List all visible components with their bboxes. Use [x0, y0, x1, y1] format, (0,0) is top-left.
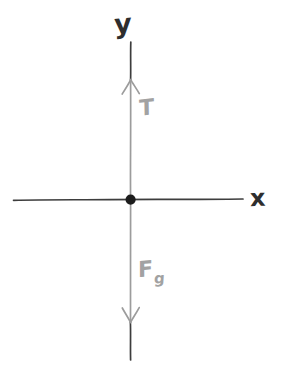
y-axis-label: y [114, 9, 132, 38]
weight-force-label-base: F [138, 256, 153, 282]
diagram-sketch [0, 0, 281, 373]
origin-point-mass-dot [126, 195, 136, 205]
weight-force-label: Fg [138, 257, 164, 281]
x-axis-label: x [250, 186, 266, 211]
weight-arrowhead-icon [122, 308, 130, 322]
weight-force-label-subscript: g [154, 271, 166, 286]
free-body-diagram-canvas: y x T Fg [0, 0, 281, 373]
weight-arrowhead-icon-right [131, 308, 140, 323]
tension-arrowhead-icon [122, 80, 131, 94]
tension-force-label: T [139, 96, 154, 120]
tension-arrowhead-icon-right [131, 80, 140, 94]
